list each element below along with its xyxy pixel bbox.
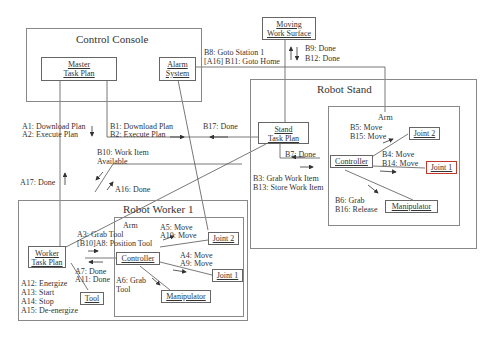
master-task-plan-line1: Master [42,60,116,69]
worker-controller-node[interactable]: Controller [116,252,160,265]
msg-a8: [B10]A8: Position Tool [77,239,152,248]
worker-joint1-node[interactable]: Joint 1 [212,269,243,282]
alarm-system-node[interactable]: Alarm System [159,57,196,81]
msg-b10a: B10: Work Item [97,148,149,157]
alarm-system-line1: Alarm [160,60,195,69]
msg-b3: B3: Grab Work Item [253,174,319,183]
worker-task-plan-line1: Worker [29,249,65,258]
stand-task-plan-node[interactable]: Stand Task Plan [258,122,309,144]
msg-b6: B6: Grab [335,196,365,205]
msg-b15: B15: Move [350,132,386,141]
worker-task-plan-node[interactable]: Worker Task Plan [28,246,66,268]
moving-work-surface-line1: Moving [263,20,315,29]
msg-b14: B14: Move [382,159,418,168]
msg-b8: B8: Goto Station 1 [204,48,264,57]
msg-a11: A11: Done [75,275,110,284]
msg-a3: A3: Grab Tool [77,230,123,239]
msg-a12: A12: Energize [21,279,67,288]
stand-task-plan-line2: Task Plan [259,134,308,143]
msg-b5: B5: Move [350,123,382,132]
msg-b7: B7: Done [285,150,316,159]
msg-b4: B4: Move [382,150,414,159]
msg-a6b: Tool [116,285,131,294]
robot-stand-title: Robot Stand [317,83,372,95]
moving-work-surface-line2: Work Surface [263,29,315,38]
worker-joint2-node[interactable]: Joint 2 [208,232,239,245]
stand-controller-node[interactable]: Controller [330,155,373,168]
msg-a15: A15: De-energize [21,306,78,315]
stand-task-plan-line1: Stand [259,125,308,134]
master-task-plan-line2: Task Plan [42,69,116,78]
robot-worker-title: Robot Worker 1 [123,203,193,215]
moving-work-surface-node[interactable]: Moving Work Surface [262,17,316,40]
msg-a13: A13: Start [21,288,54,297]
msg-b16: B16: Release [335,205,377,214]
msg-a2: A2: Execute Plan [22,130,78,139]
master-task-plan-node[interactable]: Master Task Plan [41,57,117,81]
msg-a14: A14: Stop [21,297,54,306]
msg-a16: A16: Done [115,185,150,194]
robot-stand-arm-title: Arm [378,113,393,122]
stand-manipulator-node[interactable]: Manipulator [385,200,438,213]
msg-b11: [A16] B11: Goto Home [204,57,280,66]
alarm-system-line2: System [160,69,195,78]
msg-b2: B2: Execute Plan [110,130,166,139]
stand-joint1-node[interactable]: Joint 1 [426,161,457,174]
control-console-title: Control Console [76,33,148,45]
msg-b10b: Available [97,157,128,166]
worker-task-plan-line2: Task Plan [29,258,65,267]
robot-worker-arm-title: Arm [123,221,138,230]
msg-a6a: A6: Grab [116,276,146,285]
msg-b9: B9: Done [305,44,336,53]
msg-a9: A9: Move [180,259,213,268]
stand-joint2-node[interactable]: Joint 2 [409,127,440,140]
msg-b17: B17: Done [203,122,238,131]
worker-manipulator-node[interactable]: Manipulator [161,290,211,303]
worker-tool-node[interactable]: Tool [80,292,104,305]
msg-b13: B13: Store Work Item [253,183,324,192]
msg-a17: A17: Done [20,178,55,187]
msg-b12: B12: Done [305,54,340,63]
msg-a10: A10: Move [160,231,197,240]
